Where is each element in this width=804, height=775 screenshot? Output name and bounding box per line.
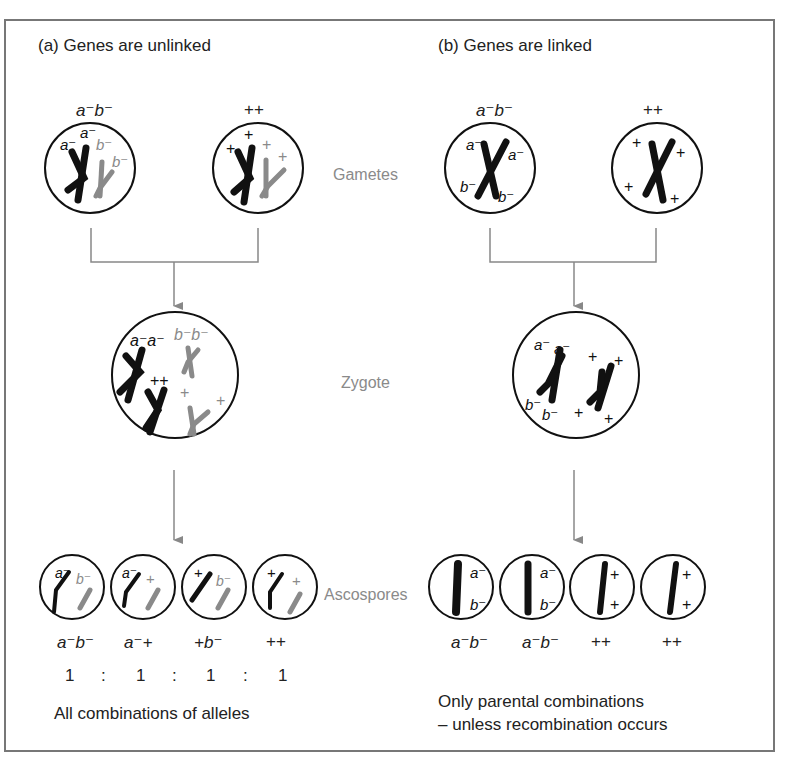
gamete-a-1-label: a⁻b⁻: [76, 100, 113, 121]
panel-b-caption-line1: Only parental combinations: [438, 690, 644, 713]
svg-text:+: +: [146, 570, 155, 587]
svg-text:a⁻: a⁻: [534, 336, 550, 353]
panel-a-art: a⁻ a⁻ b⁻ b⁻ + + + +: [40, 123, 317, 619]
svg-text:b⁻: b⁻: [96, 136, 112, 153]
panel-b-title: (b) Genes are linked: [438, 36, 592, 56]
ratio-separator: :: [172, 666, 177, 686]
stage-label-gametes: Gametes: [333, 166, 398, 184]
svg-text:b⁻: b⁻: [542, 406, 558, 423]
svg-text:+: +: [216, 392, 225, 409]
svg-text:a⁻: a⁻: [466, 136, 482, 153]
ascospore-b-genotype: a⁻b⁻: [522, 632, 559, 653]
svg-text:+: +: [226, 140, 235, 157]
diagram-artwork: a⁻ a⁻ b⁻ b⁻ + + + +: [0, 0, 804, 775]
panel-a-title: (a) Genes are unlinked: [38, 36, 211, 56]
gamete-b-1: a⁻ a⁻ b⁻ b⁻: [445, 123, 535, 213]
zygote-b: a⁻ a⁻ b⁻ b⁻ + + + +: [513, 312, 639, 438]
gamete-b-2: + + + +: [612, 123, 702, 213]
svg-text:a⁻: a⁻: [80, 124, 96, 141]
ascospore-a-genotype: +b⁻: [194, 632, 222, 653]
svg-text:b⁻: b⁻: [540, 596, 556, 613]
stage-label-zygote: Zygote: [341, 374, 390, 392]
svg-text:a⁻a⁻: a⁻a⁻: [130, 332, 165, 349]
svg-text:a⁻: a⁻: [540, 564, 556, 581]
svg-text:+: +: [194, 564, 203, 581]
svg-text:b⁻b⁻: b⁻b⁻: [174, 326, 209, 343]
gamete-a-2: + + + +: [213, 123, 303, 213]
svg-text:a⁻: a⁻: [554, 340, 570, 357]
ratio-separator: :: [243, 666, 248, 686]
zygote-a: a⁻a⁻ b⁻b⁻ ++ + +: [112, 312, 238, 438]
svg-text:+: +: [632, 134, 641, 151]
svg-text:+: +: [624, 178, 633, 195]
svg-text:+: +: [262, 136, 271, 153]
ratio-value: 1: [136, 666, 145, 686]
svg-text:+: +: [670, 190, 679, 207]
stage-label-ascospores: Ascospores: [324, 586, 408, 604]
svg-text:+: +: [682, 596, 691, 613]
ascospore-b-genotype: ++: [662, 632, 682, 652]
ratio-value: 1: [278, 666, 287, 686]
svg-text:++: ++: [150, 372, 169, 389]
svg-text:+: +: [676, 144, 685, 161]
ascospore-a-genotype: a⁻+: [124, 632, 152, 653]
svg-text:b⁻: b⁻: [525, 396, 541, 413]
svg-text:+: +: [267, 564, 276, 581]
svg-text:+: +: [244, 126, 253, 143]
svg-text:b⁻: b⁻: [76, 571, 91, 587]
ascospore-a-genotype: ++: [266, 632, 286, 652]
ascospore-b-genotype: a⁻b⁻: [451, 632, 488, 653]
svg-text:+: +: [682, 566, 691, 583]
svg-text:+: +: [278, 148, 287, 165]
svg-text:a⁻: a⁻: [122, 565, 137, 581]
gamete-a-1: a⁻ a⁻ b⁻ b⁻: [45, 123, 135, 213]
svg-text:+: +: [604, 410, 613, 427]
ascospore-a-genotype: a⁻b⁻: [57, 632, 94, 653]
panel-b-art: a⁻ a⁻ b⁻ b⁻ + + + + a⁻ a⁻ b⁻ b⁻ + +: [429, 123, 705, 619]
svg-text:+: +: [588, 348, 597, 365]
ratio-separator: :: [101, 666, 106, 686]
svg-text:b⁻: b⁻: [112, 153, 128, 170]
svg-text:a⁻: a⁻: [470, 564, 486, 581]
svg-text:+: +: [610, 596, 619, 613]
svg-text:+: +: [610, 566, 619, 583]
ratio-value: 1: [206, 666, 215, 686]
gamete-b-2-label: ++: [643, 100, 663, 120]
ratio-value: 1: [65, 666, 74, 686]
svg-text:+: +: [180, 384, 189, 401]
panel-b-caption-line2: – unless recombination occurs: [438, 713, 668, 736]
ascospores-a: a⁻ b⁻ a⁻ + + b⁻ + +: [40, 555, 317, 619]
svg-text:+: +: [292, 572, 301, 589]
svg-text:+: +: [574, 404, 583, 421]
svg-text:b⁻: b⁻: [460, 178, 476, 195]
gamete-a-2-label: ++: [244, 100, 264, 120]
svg-text:b⁻: b⁻: [470, 596, 486, 613]
gamete-b-1-label: a⁻b⁻: [476, 100, 513, 121]
svg-text:a⁻: a⁻: [508, 146, 524, 163]
svg-text:+: +: [614, 352, 623, 369]
svg-text:b⁻: b⁻: [216, 573, 231, 589]
ascospores-b: a⁻ b⁻ a⁻ b⁻ + + + +: [429, 555, 705, 619]
svg-text:b⁻: b⁻: [498, 188, 514, 205]
ascospore-b-genotype: ++: [591, 632, 611, 652]
svg-text:a⁻: a⁻: [60, 136, 76, 153]
panel-a-caption: All combinations of alleles: [54, 702, 250, 725]
svg-text:a⁻: a⁻: [55, 565, 70, 581]
